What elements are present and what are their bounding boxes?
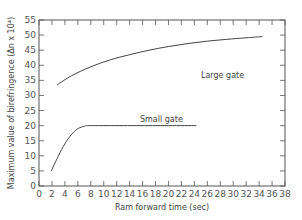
x-tick-label: 38	[279, 189, 291, 199]
large-gate-label: Large gate	[201, 71, 244, 80]
birefringence-chart: 02468101214161820222426283032343638 0510…	[0, 0, 302, 220]
x-tick-label: 2	[49, 189, 55, 199]
y-tick-label: 20	[25, 121, 37, 131]
x-axis: 02468101214161820222426283032343638	[36, 20, 291, 199]
x-tick-label: 28	[215, 189, 227, 199]
x-tick-label: 4	[62, 189, 68, 199]
x-tick-label: 30	[227, 189, 239, 199]
plot-curves	[51, 37, 262, 171]
x-axis-title: Ram forward time (sec)	[115, 203, 209, 212]
x-tick-label: 34	[253, 189, 265, 199]
x-tick-label: 10	[98, 189, 110, 199]
y-tick-label: 15	[25, 136, 36, 146]
plot-frame	[39, 20, 285, 186]
y-tick-label: 55	[25, 15, 36, 25]
y-tick-label: 40	[25, 60, 37, 70]
y-tick-label: 50	[25, 30, 37, 40]
x-tick-label: 16	[137, 189, 149, 199]
y-axis: 0510152025303540455055	[25, 15, 285, 191]
x-tick-label: 12	[111, 189, 122, 199]
x-tick-label: 6	[75, 189, 81, 199]
x-tick-label: 20	[163, 189, 175, 199]
x-tick-label: 22	[176, 189, 187, 199]
plot-border	[39, 20, 285, 186]
x-tick-label: 18	[150, 189, 162, 199]
y-tick-label: 5	[30, 166, 36, 176]
y-tick-label: 0	[30, 181, 36, 191]
x-tick-label: 36	[266, 189, 278, 199]
x-tick-label: 32	[240, 189, 251, 199]
y-tick-label: 30	[25, 90, 37, 100]
y-axis-title: Maximum value of birefringence (Δn x 10⁴…	[7, 17, 16, 189]
x-tick-label: 0	[36, 189, 42, 199]
x-tick-label: 14	[124, 189, 136, 199]
y-tick-label: 25	[25, 106, 36, 116]
y-tick-label: 10	[25, 151, 37, 161]
y-tick-label: 35	[25, 75, 36, 85]
x-tick-label: 24	[189, 189, 201, 199]
y-tick-label: 45	[25, 45, 36, 55]
small-gate-curve	[51, 126, 196, 171]
small-gate-label: Small gate	[140, 115, 183, 124]
x-tick-label: 26	[202, 189, 214, 199]
x-tick-label: 8	[88, 189, 94, 199]
